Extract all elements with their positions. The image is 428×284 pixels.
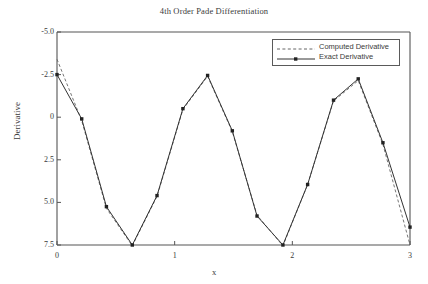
y-tick-label: 7.5 — [0, 241, 54, 249]
x-tick-label: 3 — [390, 251, 428, 260]
chart-figure: 4th Order Pade Differentiation Derivativ… — [0, 0, 428, 284]
data-point-marker — [281, 243, 284, 246]
y-tick-label: 5.0 — [0, 198, 54, 206]
data-point-marker — [255, 214, 258, 217]
chart-title: 4th Order Pade Differentiation — [0, 6, 428, 16]
x-tick-label: 2 — [272, 251, 312, 260]
x-tick-label: 0 — [37, 251, 77, 260]
data-point-marker — [381, 141, 384, 144]
legend-sample-solid-marker-icon — [277, 56, 315, 62]
legend-sample-dashed-icon — [277, 48, 315, 50]
legend-label-computed: Computed Derivative — [319, 42, 389, 51]
data-point-marker — [55, 73, 58, 76]
series-exact-derivative — [57, 75, 410, 245]
x-tick-label: 1 — [155, 251, 195, 260]
data-point-marker — [206, 74, 209, 77]
x-axis-ticks: 0123 — [0, 251, 428, 267]
data-point-marker — [131, 243, 134, 246]
y-tick-label: 0 — [0, 113, 54, 121]
series-computed-derivative — [57, 59, 410, 246]
data-point-marker — [231, 129, 234, 132]
data-point-marker — [105, 205, 108, 208]
y-tick-label: -5.0 — [0, 28, 54, 36]
data-point-marker — [408, 225, 411, 228]
data-point-marker — [155, 194, 158, 197]
data-point-marker — [332, 98, 335, 101]
data-point-marker — [181, 107, 184, 110]
y-axis-ticks: 7.55.02.50-2.5-5.0 — [0, 0, 54, 284]
legend: Computed Derivative Exact Derivative — [272, 39, 400, 66]
y-tick-label: -2.5 — [0, 71, 54, 79]
y-tick-label: 2.5 — [0, 156, 54, 164]
data-point-marker — [357, 77, 360, 80]
legend-item-exact: Exact Derivative — [277, 53, 397, 64]
data-point-marker — [80, 117, 83, 120]
x-axis-label: x — [0, 267, 428, 277]
legend-label-exact: Exact Derivative — [319, 52, 373, 61]
data-point-marker — [306, 183, 309, 186]
